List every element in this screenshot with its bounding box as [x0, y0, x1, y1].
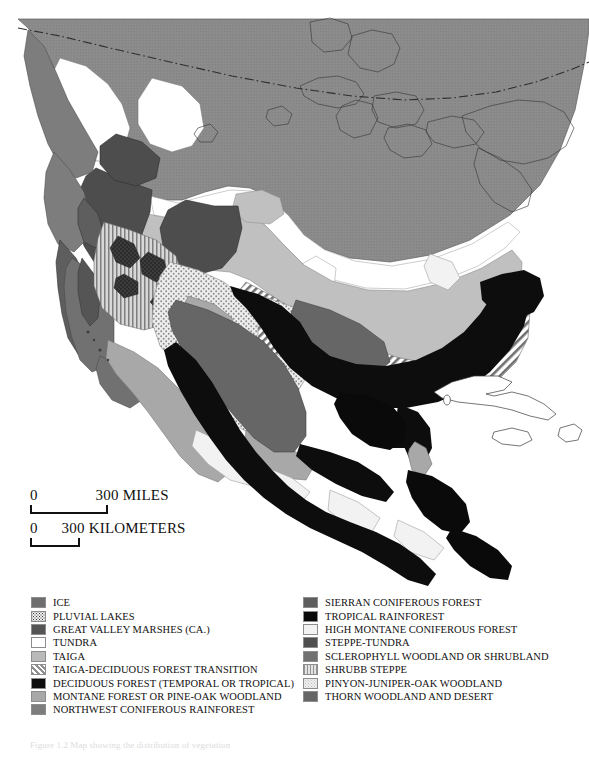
legend-swatch-taiga-deciduous-transition [31, 664, 46, 675]
legend-item-sierran-coniferous-forest: SIERRAN CONIFEROUS FOREST [303, 596, 583, 609]
legend-item-montane-forest: MONTANE FOREST OR PINE-OAK WOODLAND [31, 690, 296, 703]
legend-label-taiga: TAIGA [53, 651, 85, 662]
legend-column-left: ICEPLUVIAL LAKESGREAT VALLEY MARSHES (CA… [31, 596, 296, 717]
scale-miles-zero: 0 [30, 487, 38, 503]
legend-swatch-steppe-tundra [303, 637, 318, 648]
legend-item-shrub-steppe: SHRUBB STEPPE [303, 663, 583, 676]
legend-swatch-montane-forest [31, 691, 46, 702]
legend-item-pinyon-juniper-oak-woodland: PINYON-JUNIPER-OAK WOODLAND [303, 676, 583, 689]
legend-swatch-ice [31, 597, 46, 608]
legend-item-taiga-deciduous-transition: TAIGA-DECIDUOUS FOREST TRANSITION [31, 663, 296, 676]
legend-item-taiga: TAIGA [31, 650, 296, 663]
legend-label-pinyon-juniper-oak-woodland: PINYON-JUNIPER-OAK WOODLAND [325, 678, 502, 689]
scale-bar-kilometers: 0 300 KILOMETERS [30, 520, 250, 553]
legend-swatch-northwest-coniferous-rainforest [31, 704, 46, 715]
legend-label-pluvial-lakes: PLUVIAL LAKES [53, 611, 135, 622]
legend-item-thorn-woodland-desert: THORN WOODLAND AND DESERT [303, 690, 583, 703]
legend-item-tundra: TUNDRA [31, 636, 296, 649]
legend-item-great-valley-marshes: GREAT VALLEY MARSHES (CA.) [31, 623, 296, 636]
scale-bars: 0 300 MILES 0 300 KILOMETERS [30, 487, 250, 553]
legend-swatch-high-montane-coniferous-forest [303, 624, 318, 635]
legend-swatch-shrub-steppe [303, 664, 318, 675]
legend-label-taiga-deciduous-transition: TAIGA-DECIDUOUS FOREST TRANSITION [53, 664, 258, 675]
scale-miles-value: 300 [96, 487, 119, 503]
legend-item-sclerophyll-woodland: SCLEROPHYLL WOODLAND OR SHRUBLAND [303, 650, 583, 663]
map-legend: ICEPLUVIAL LAKESGREAT VALLEY MARSHES (CA… [0, 596, 589, 726]
legend-item-tropical-rainforest: TROPICAL RAINFOREST [303, 609, 583, 622]
legend-swatch-taiga [31, 651, 46, 662]
legend-swatch-thorn-woodland-desert [303, 691, 318, 702]
legend-swatch-tundra [31, 637, 46, 648]
legend-swatch-deciduous-forest [31, 678, 46, 689]
legend-swatch-pluvial-lakes [31, 611, 46, 622]
legend-label-tundra: TUNDRA [53, 637, 97, 648]
legend-swatch-great-valley-marshes [31, 624, 46, 635]
legend-label-northwest-coniferous-rainforest: NORTHWEST CONIFEROUS RAINFOREST [53, 704, 254, 715]
legend-column-right: SIERRAN CONIFEROUS FORESTTROPICAL RAINFO… [303, 596, 583, 703]
legend-item-high-montane-coniferous-forest: HIGH MONTANE CONIFEROUS FOREST [303, 623, 583, 636]
legend-label-great-valley-marshes: GREAT VALLEY MARSHES (CA.) [53, 624, 210, 635]
legend-item-steppe-tundra: STEPPE-TUNDRA [303, 636, 583, 649]
scale-miles-unit: MILES [123, 487, 169, 503]
legend-item-ice: ICE [31, 596, 296, 609]
legend-label-montane-forest: MONTANE FOREST OR PINE-OAK WOODLAND [53, 691, 282, 702]
legend-item-pluvial-lakes: PLUVIAL LAKES [31, 609, 296, 622]
legend-item-deciduous-forest: DECIDUOUS FOREST (TEMPORAL OR TROPICAL) [31, 676, 296, 689]
scale-kilometers-unit: KILOMETERS [89, 520, 186, 536]
legend-swatch-sierran-coniferous-forest [303, 597, 318, 608]
isla-juventud-outline [444, 395, 451, 405]
legend-label-shrub-steppe: SHRUBB STEPPE [325, 664, 407, 675]
scale-miles-graphic [30, 505, 250, 514]
scale-kilometers-labels: 0 300 KILOMETERS [30, 520, 250, 537]
map-page: 0 300 MILES 0 300 KILOMETERS [0, 0, 589, 759]
scale-kilometers-graphic [30, 538, 250, 547]
legend-label-high-montane-coniferous-forest: HIGH MONTANE CONIFEROUS FOREST [325, 624, 517, 635]
scale-bar-miles: 0 300 MILES [30, 487, 250, 520]
legend-swatch-tropical-rainforest [303, 611, 318, 622]
scale-miles-labels: 0 300 MILES [30, 487, 250, 504]
legend-swatch-pinyon-juniper-oak-woodland [303, 678, 318, 689]
legend-label-sclerophyll-woodland: SCLEROPHYLL WOODLAND OR SHRUBLAND [325, 651, 549, 662]
figure-caption: Figure 1.2 Map showing the distribution … [30, 740, 570, 751]
legend-label-deciduous-forest: DECIDUOUS FOREST (TEMPORAL OR TROPICAL) [53, 678, 294, 689]
legend-label-steppe-tundra: STEPPE-TUNDRA [325, 637, 410, 648]
legend-swatch-sclerophyll-woodland [303, 651, 318, 662]
legend-label-thorn-woodland-desert: THORN WOODLAND AND DESERT [325, 691, 493, 702]
legend-item-northwest-coniferous-rainforest: NORTHWEST CONIFEROUS RAINFOREST [31, 703, 296, 716]
legend-label-tropical-rainforest: TROPICAL RAINFOREST [325, 611, 444, 622]
scale-kilometers-value: 300 [62, 520, 85, 536]
legend-label-ice: ICE [53, 597, 70, 608]
legend-label-sierran-coniferous-forest: SIERRAN CONIFEROUS FOREST [325, 597, 481, 608]
scale-kilometers-zero: 0 [30, 520, 38, 536]
